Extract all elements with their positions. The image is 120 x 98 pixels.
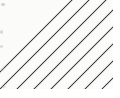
- stripe-halo: [47, 0, 113, 89]
- scan-smudge: [1, 3, 5, 6]
- diagonal-stripe-svg: [0, 0, 113, 89]
- stripe-line: [64, 0, 113, 89]
- scan-smudge: [0, 30, 3, 34]
- stripe-line: [0, 0, 99, 89]
- hatch-swatch-image: Thin dark diagonal lines rising to the r…: [0, 0, 120, 98]
- right-paper-margin: [113, 0, 120, 98]
- pattern-plate: [0, 0, 113, 89]
- stripe-group: [0, 0, 113, 89]
- scan-smudge: [0, 45, 3, 48]
- stripe-halo: [64, 0, 113, 89]
- scan-smudge: [1, 68, 4, 71]
- bottom-paper-margin: [0, 89, 120, 98]
- diagonal-stripe-layer: [0, 0, 113, 89]
- stripe-halo: [30, 0, 113, 89]
- scan-smudge: [2, 86, 6, 88]
- stripe-line: [30, 0, 113, 89]
- stripe-halo: [0, 0, 99, 89]
